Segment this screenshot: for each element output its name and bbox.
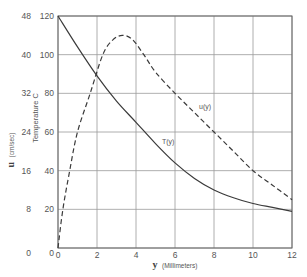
y-axis-temperature-label: Temperature C — [31, 93, 40, 143]
x-tick-label: 6 — [173, 250, 178, 260]
y-axis-velocity-unit: (cm/sec) — [8, 133, 16, 158]
temperature-tick-label: 80 — [45, 88, 55, 98]
y-axis-velocity-symbol: u — [5, 161, 16, 167]
x-tick-label: 0 — [56, 250, 61, 260]
temperature-tick-label: 100 — [40, 50, 54, 60]
x-tick-label: 8 — [212, 250, 217, 260]
temperature-tick-label: 20 — [45, 204, 55, 214]
velocity-tick-label: 48 — [22, 11, 32, 21]
temperature-tick-label: 60 — [45, 127, 55, 137]
velocity-tick-label: 8 — [26, 204, 31, 214]
velocity-tick-label: 40 — [22, 50, 32, 60]
temperature-tick-label: 0 — [49, 248, 54, 258]
svg-text:u (cm/sec): u (cm/sec) — [0, 133, 17, 168]
tick-labels: 024681012020406080100120081624324048 — [22, 11, 297, 260]
temperature-tick-label: 120 — [40, 11, 54, 21]
chart: 024681012020406080100120081624324048 u (… — [0, 0, 307, 277]
curve-label-temperature: T(y) — [162, 138, 174, 146]
x-tick-label: 2 — [95, 250, 100, 260]
x-axis-unit: (Millimeters) — [162, 262, 197, 270]
x-tick-label: 12 — [287, 250, 297, 260]
temperature-tick-label: 40 — [45, 166, 55, 176]
velocity-tick-label: 32 — [22, 88, 32, 98]
velocity-tick-label: 24 — [22, 127, 32, 137]
velocity-tick-label: 0 — [26, 248, 31, 258]
curve-label-velocity: u(y) — [199, 103, 211, 111]
x-axis-symbol: y — [153, 259, 158, 270]
velocity-tick-label: 16 — [22, 166, 32, 176]
y-axis-velocity-label: u (cm/sec) — [0, 133, 17, 168]
x-tick-label: 4 — [134, 250, 139, 260]
grid — [58, 16, 292, 248]
x-tick-label: 10 — [248, 250, 258, 260]
